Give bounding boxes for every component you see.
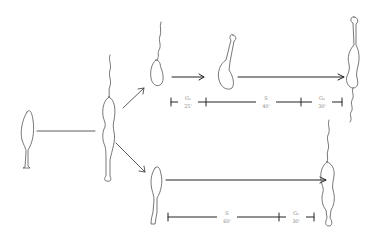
arrow-up-right: [123, 88, 144, 108]
cell-bottom-g1: [151, 167, 162, 224]
cell-cycle-diagram: [0, 0, 373, 241]
label-top-s: S 40': [256, 96, 276, 109]
cell-dividing: [103, 55, 115, 181]
cell-top-predivisional: [346, 17, 359, 122]
label-bottom-s: S 60': [217, 211, 237, 224]
cell-initial: [21, 111, 33, 168]
arrow-down-right: [116, 143, 145, 172]
cell-bottom-predivisional: [321, 120, 335, 226]
arrow-top-1: [172, 74, 204, 80]
cell-top-stalked: [218, 35, 235, 90]
cell-top-g1: [151, 22, 163, 86]
label-top-g2: G₂ 30': [312, 96, 332, 109]
arrow-bottom: [166, 177, 326, 183]
label-top-g1: G₁ 25': [178, 96, 198, 109]
arrow-top-2: [238, 74, 344, 80]
label-bottom-g2: G₂ 30': [286, 211, 306, 224]
